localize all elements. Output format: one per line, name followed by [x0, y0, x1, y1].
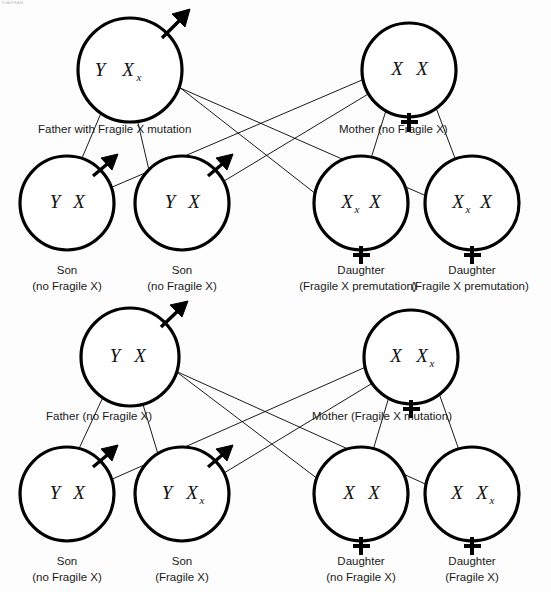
- top-mother-label: Mother (no Fragile X): [339, 123, 448, 135]
- bottom-child-1-caption-line2: (no Fragile X): [32, 571, 102, 583]
- bottom-mother-allele-1: X: [389, 345, 403, 366]
- top-child-1-caption-line2: (no Fragile X): [32, 280, 102, 292]
- bottom-child-3-cell[interactable]: X X: [314, 447, 408, 555]
- top-child-4-allele-1: X: [451, 191, 465, 212]
- bottom-father-label: Father (no Fragile X): [46, 410, 152, 422]
- bottom-child-3-circle[interactable]: [314, 447, 408, 541]
- top-child-4-caption-line2: (Fragile X premutation): [411, 280, 529, 292]
- top-child-3-allele-1-fragile-subscript: x: [354, 203, 360, 215]
- bottom-child-3-caption-line2: (no Fragile X): [326, 571, 396, 583]
- fragile-x-inheritance-diagram: DIAGRAM Y X x: [0, 0, 551, 592]
- bottom-child-2-allele-2-fragile-subscript: x: [199, 494, 205, 506]
- top-child-3-circle[interactable]: [314, 156, 408, 250]
- bottom-child-2-allele-2: X: [185, 482, 199, 503]
- bottom-child-4-caption-line2: (Fragile X): [445, 571, 499, 583]
- top-child-4-allele-1-fragile-subscript: x: [465, 203, 471, 215]
- bottom-child-2-caption-line2: (Fragile X): [155, 571, 209, 583]
- bottom-child-3-allele-1: X: [342, 482, 356, 503]
- bottom-child-3-allele-2: X: [367, 482, 381, 503]
- top-child-3-caption-line1: Daughter: [337, 264, 384, 276]
- panel-bottom: Y X X X x Father (no Fragile X): [20, 301, 519, 583]
- bottom-father-allele-2: X: [133, 345, 147, 366]
- top-child-4-cell[interactable]: X x X: [425, 156, 519, 264]
- bottom-mother-cell[interactable]: X X x: [364, 310, 458, 418]
- top-mother-allele-1: X: [390, 58, 404, 79]
- diagram-canvas: Y X x X X Father with Fragile X muta: [0, 0, 551, 592]
- bottom-child-2-caption-line1: Son: [172, 555, 192, 567]
- bottom-mother-circle[interactable]: [364, 310, 458, 404]
- top-child-4-allele-2: X: [479, 191, 493, 212]
- male-arrow-icon: [162, 9, 190, 38]
- top-child-1-cell[interactable]: Y X: [20, 154, 118, 250]
- bottom-child-4-allele-1: X: [450, 482, 464, 503]
- top-father-cell[interactable]: Y X x: [78, 9, 190, 122]
- male-arrow-icon: [161, 301, 188, 327]
- top-child-3-cell[interactable]: X x X: [314, 156, 408, 264]
- top-mother-allele-2: X: [415, 58, 429, 79]
- top-child-2-cell[interactable]: Y X: [135, 154, 233, 250]
- bottom-child-1-cell[interactable]: Y X: [20, 445, 118, 541]
- bottom-child-2-cell[interactable]: Y X x: [135, 445, 233, 541]
- top-father-allele-2: X: [121, 59, 135, 80]
- top-child-3-caption-line2: (Fragile X premutation): [299, 280, 417, 292]
- top-father-label: Father with Fragile X mutation: [38, 123, 191, 135]
- bottom-child-4-circle[interactable]: [425, 447, 519, 541]
- top-child-1-allele-2: X: [72, 191, 86, 212]
- top-child-2-allele-2: X: [187, 191, 201, 212]
- bottom-child-4-caption-line1: Daughter: [448, 555, 495, 567]
- top-father-allele-2-fragile-subscript: x: [136, 71, 142, 83]
- bottom-mother-label: Mother (Fragile X mutation): [312, 410, 452, 422]
- bottom-child-4-cell[interactable]: X X x: [425, 447, 519, 555]
- bottom-child-1-allele-2: X: [72, 482, 86, 503]
- top-mother-cell[interactable]: X X: [362, 23, 456, 132]
- top-mother-circle[interactable]: [362, 23, 456, 117]
- bottom-mother-allele-2: X: [415, 345, 429, 366]
- top-child-3-allele-1: X: [340, 191, 354, 212]
- top-child-2-caption-line2: (no Fragile X): [147, 280, 217, 292]
- bottom-child-3-caption-line1: Daughter: [337, 555, 384, 567]
- bottom-father-cell[interactable]: Y X: [81, 301, 188, 406]
- top-child-2-caption-line1: Son: [172, 264, 192, 276]
- bottom-child-4-allele-2-fragile-subscript: x: [489, 494, 495, 506]
- top-child-3-allele-2: X: [368, 191, 382, 212]
- top-child-1-caption-line1: Son: [57, 264, 77, 276]
- bottom-mother-allele-2-fragile-subscript: x: [429, 357, 435, 369]
- bottom-child-1-caption-line1: Son: [57, 555, 77, 567]
- panel-top: Y X x X X Father with Fragile X muta: [20, 9, 529, 292]
- top-child-4-circle[interactable]: [425, 156, 519, 250]
- top-child-4-caption-line1: Daughter: [448, 264, 495, 276]
- bottom-child-4-allele-2: X: [475, 482, 489, 503]
